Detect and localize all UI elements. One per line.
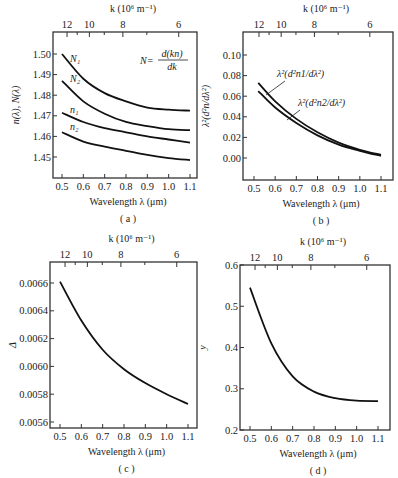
x-tick-label: 0.8 [119, 181, 132, 192]
y-tick-label: 0.10 [223, 50, 241, 61]
y-tick-label: 1.46 [33, 131, 51, 142]
x-tick-label: 0.9 [141, 181, 154, 192]
y-tick-label: 0.0066 [19, 278, 48, 289]
x-axis-label: Wavelength λ (μm) [282, 198, 359, 210]
series-label: λ²(d²n2/dλ²) [297, 97, 346, 109]
series-label: n₂ [70, 121, 79, 132]
top-tick-label: 10 [276, 19, 287, 30]
formula-numerator: d(kn) [161, 48, 183, 60]
top-tick-label: 8 [120, 19, 125, 30]
top-tick-label: 8 [308, 252, 313, 263]
y-tick-label: 1.50 [33, 49, 51, 60]
series-label: N₂ [69, 73, 81, 84]
top-tick-label: 6 [367, 19, 372, 30]
series-line-n2 [62, 132, 190, 160]
figure: 0.50.60.70.80.91.01.11.451.461.471.481.4… [0, 0, 398, 478]
y-tick-label: 1.45 [33, 152, 51, 163]
y-axis-label: λ²(d²n/dλ²) [200, 84, 212, 128]
y-tick-label: 0.0056 [19, 417, 48, 428]
x-tick-label: 0.5 [243, 433, 256, 444]
y-tick-label: 0.0062 [19, 333, 48, 344]
top-axis-label: k (10⁶ m⁻¹) [108, 233, 154, 245]
formula-annotation: N= [139, 55, 153, 66]
y-axis-label: y [197, 345, 208, 351]
y-tick-label: 0.0058 [19, 389, 48, 400]
x-tick-label: 0.6 [269, 183, 282, 194]
panel-caption: ( d ) [310, 465, 327, 477]
formula-denominator: dk [167, 61, 177, 72]
x-tick-label: 0.8 [117, 431, 130, 442]
x-tick-label: 0.8 [311, 183, 324, 194]
y-tick-label: 0.0064 [19, 305, 49, 316]
panel-c: 0.50.60.70.80.91.01.10.00560.00580.00600… [7, 233, 197, 475]
top-tick-label: 10 [82, 249, 93, 260]
y-tick-label: 0.2 [225, 425, 238, 436]
top-tick-label: 12 [62, 19, 73, 30]
plot-frame [50, 262, 197, 428]
x-axis-label: Wavelength λ (μm) [88, 446, 165, 458]
y-tick-label: 0.08 [223, 70, 241, 81]
y-tick-label: 0.06 [223, 91, 241, 102]
series-line-n1 [62, 113, 190, 143]
panel-d: 0.50.60.70.80.91.01.10.20.30.40.50.61210… [197, 236, 390, 477]
panel-caption: ( a ) [120, 213, 136, 225]
top-tick-label: 6 [364, 252, 369, 263]
x-tick-label: 1.1 [181, 431, 194, 442]
series-line-λ²(d²n1/dλ²) [258, 83, 381, 155]
top-tick-label: 10 [272, 252, 283, 263]
y-tick-label: 0.00 [223, 153, 241, 164]
x-tick-label: 0.9 [139, 431, 152, 442]
x-tick-label: 0.9 [329, 433, 342, 444]
x-tick-label: 0.7 [96, 431, 109, 442]
panel-caption: ( c ) [118, 463, 134, 475]
x-tick-label: 0.5 [53, 431, 66, 442]
x-axis-label: Wavelength λ (μm) [89, 196, 166, 208]
top-axis-label: k (10⁶ m⁻¹) [300, 236, 346, 248]
top-axis-label: k (10⁶ m⁻¹) [303, 3, 349, 15]
x-tick-label: 0.7 [286, 433, 299, 444]
plot-frame [240, 265, 390, 430]
x-tick-label: 1.0 [353, 183, 366, 194]
x-tick-label: 1.0 [160, 431, 173, 442]
top-tick-label: 6 [174, 249, 179, 260]
x-tick-label: 0.5 [55, 181, 68, 192]
y-tick-label: 1.49 [33, 69, 51, 80]
panel-caption: ( b ) [313, 215, 330, 227]
x-axis-label: Wavelength λ (μm) [279, 448, 356, 460]
y-axis-label: Δ [7, 342, 18, 349]
y-tick-label: 0.4 [225, 342, 239, 353]
x-tick-label: 0.9 [332, 183, 345, 194]
top-tick-label: 12 [250, 252, 261, 263]
x-tick-label: 0.7 [290, 183, 303, 194]
y-tick-label: 0.3 [225, 383, 238, 394]
top-tick-label: 12 [60, 249, 71, 260]
series-label: λ²(d²n1/dλ²) [276, 68, 325, 80]
y-tick-label: 0.5 [225, 301, 238, 312]
y-tick-label: 0.6 [225, 260, 238, 271]
series-line-Δ [60, 282, 188, 404]
series-label: n₁ [70, 104, 78, 115]
y-tick-label: 0.02 [223, 132, 241, 143]
y-tick-label: 1.48 [33, 90, 51, 101]
series-line-y [250, 288, 378, 401]
y-tick-label: 0.04 [223, 111, 242, 122]
x-tick-label: 0.6 [265, 433, 278, 444]
x-tick-label: 0.5 [247, 183, 260, 194]
top-tick-label: 8 [312, 19, 317, 30]
top-tick-label: 6 [176, 19, 181, 30]
x-tick-label: 1.1 [183, 181, 196, 192]
top-tick-label: 10 [84, 19, 95, 30]
series-line-N2 [62, 81, 190, 130]
series-label: N₁ [69, 53, 80, 64]
x-tick-label: 1.0 [350, 433, 363, 444]
x-tick-label: 0.6 [75, 431, 88, 442]
x-tick-label: 1.1 [374, 183, 387, 194]
top-tick-label: 8 [118, 249, 123, 260]
y-tick-label: 1.47 [33, 110, 51, 121]
top-axis-label: k (10⁶ m⁻¹) [110, 3, 156, 15]
x-tick-label: 0.7 [98, 181, 111, 192]
y-tick-label: 0.0060 [19, 361, 48, 372]
panel-b: 0.50.60.70.80.91.01.10.000.020.040.060.0… [200, 3, 393, 227]
top-tick-label: 12 [254, 19, 265, 30]
y-axis-label: n(λ), N(λ) [10, 85, 22, 124]
